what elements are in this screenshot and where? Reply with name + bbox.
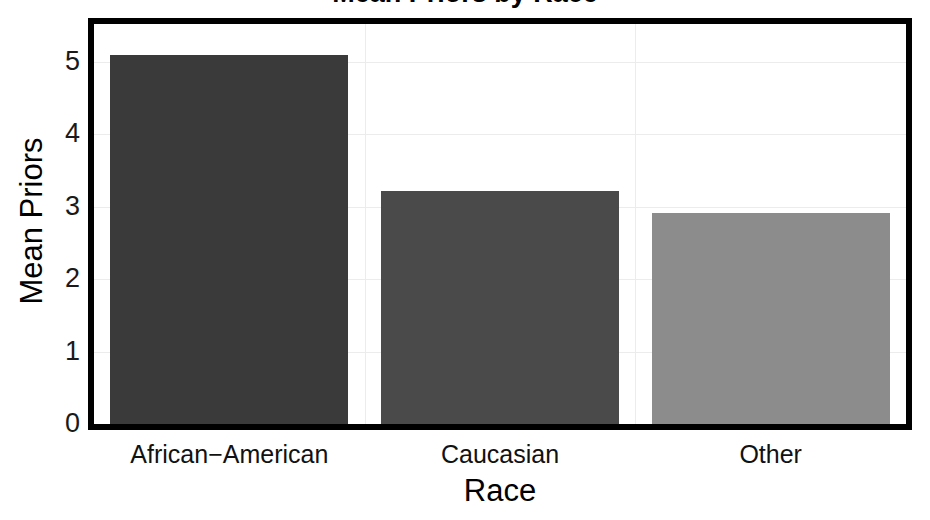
y-tick-label-0: 0 <box>20 410 80 437</box>
plot-frame <box>88 18 912 430</box>
y-tick-label-5: 5 <box>20 48 80 75</box>
bar-2[interactable] <box>652 213 890 424</box>
bar-chart-figure: Mean Priors by Race Mean Priors 012345 A… <box>0 0 930 520</box>
x-axis-title: Race <box>88 474 912 508</box>
gridline-vertical <box>365 24 366 424</box>
bar-1[interactable] <box>381 191 619 424</box>
plot-area <box>94 24 906 424</box>
x-tick-label-2: Other <box>591 440 930 468</box>
bar-0[interactable] <box>110 55 348 424</box>
y-tick-label-2: 2 <box>20 265 80 292</box>
y-tick-label-1: 1 <box>20 338 80 365</box>
y-tick-label-3: 3 <box>20 193 80 220</box>
chart-title: Mean Priors by Race <box>0 0 930 8</box>
gridline-horizontal <box>94 424 906 425</box>
gridline-vertical <box>635 24 636 424</box>
y-tick-label-4: 4 <box>20 120 80 147</box>
